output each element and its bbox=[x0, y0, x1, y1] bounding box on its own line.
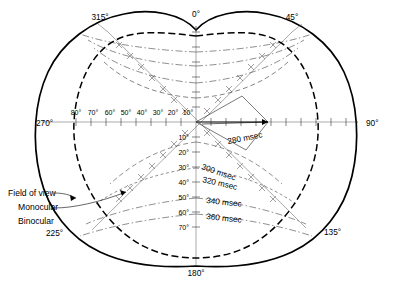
legend-leader-lines bbox=[54, 192, 126, 208]
meridian-label-180: 180° bbox=[187, 268, 204, 278]
meridian-label-90: 90° bbox=[366, 118, 379, 128]
meridian-label-0: 0° bbox=[192, 9, 200, 19]
arrowhead-280-msec bbox=[262, 119, 268, 125]
radial-label-v-70: 70° bbox=[178, 224, 189, 231]
isochrone-label-280: 280 msec bbox=[227, 130, 264, 146]
meridian-label-225: 225° bbox=[46, 228, 63, 238]
meridian-label-270: 270° bbox=[36, 118, 53, 128]
isochrone-label-360: 360 msec bbox=[206, 212, 242, 225]
polar-visual-field-chart: 0° 45° 90° 135° 180° 225° 270° 315° 80° … bbox=[0, 0, 400, 284]
radial-label-h-10: 10° bbox=[183, 109, 194, 116]
legend-label-field-of-view: Field of view bbox=[8, 188, 57, 198]
radial-label-h-20: 20° bbox=[168, 109, 179, 116]
meridian-extensions bbox=[42, 24, 358, 266]
radial-label-v-40: 40° bbox=[178, 179, 189, 186]
radial-label-h-40: 40° bbox=[137, 109, 148, 116]
meridian-label-45: 45° bbox=[286, 12, 299, 22]
chart-canvas: 0° 45° 90° 135° 180° 225° 270° 315° 80° … bbox=[0, 0, 400, 284]
radial-label-h-30: 30° bbox=[153, 109, 164, 116]
radial-label-v-30: 30° bbox=[178, 164, 189, 171]
radial-label-v-20: 20° bbox=[178, 149, 189, 156]
legend-label-binocular: Binocular bbox=[18, 216, 54, 226]
meridian-label-135: 135° bbox=[324, 227, 341, 237]
radial-label-h-70: 70° bbox=[88, 109, 99, 116]
meridian-label-315: 315° bbox=[91, 12, 108, 22]
radial-label-v-10: 10° bbox=[178, 134, 189, 141]
legend-label-monocular: Monocular bbox=[18, 202, 58, 212]
radial-label-h-60: 60° bbox=[105, 109, 116, 116]
arrowhead-binocular bbox=[120, 190, 126, 196]
isochrone-label-340: 340 msec bbox=[206, 196, 242, 209]
legend-leader-arrowheads bbox=[70, 190, 126, 201]
arrowhead-monocular bbox=[70, 195, 76, 201]
meridian-grid bbox=[62, 26, 358, 262]
radial-label-h-50: 50° bbox=[121, 109, 132, 116]
radial-label-v-60: 60° bbox=[178, 209, 189, 216]
radial-label-v-50: 50° bbox=[178, 194, 189, 201]
radial-label-h-80: 80° bbox=[71, 109, 82, 116]
